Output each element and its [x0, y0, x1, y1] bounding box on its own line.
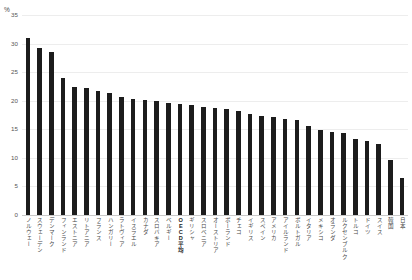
x-axis-category-label: スロバキア [154, 217, 160, 248]
bar [143, 100, 148, 215]
x-axis-category-label: スウェーデン [37, 217, 43, 254]
x-axis-category-label: リトアニア [83, 217, 89, 248]
x-axis-category-label: 韓国 [388, 217, 394, 229]
y-axis-tick: 15 [11, 126, 18, 132]
y-axis-unit-label: % [4, 6, 10, 13]
bar [72, 87, 77, 215]
bar [201, 107, 206, 215]
bar [400, 178, 405, 215]
bar [49, 52, 54, 215]
plot-area [22, 15, 408, 215]
x-axis-category-label: OECD平均 [177, 217, 183, 254]
bar [376, 144, 381, 215]
y-axis-tick-labels: 05101520253035 [0, 15, 22, 215]
x-axis-category-label: スペイン [259, 217, 265, 241]
x-axis-category-label: チェコ [236, 217, 242, 235]
bar [166, 103, 171, 215]
x-axis-category-label: カナダ [142, 217, 148, 235]
bar [236, 111, 241, 215]
bar [84, 88, 89, 215]
bar [189, 105, 194, 215]
y-axis-tick: 5 [15, 183, 18, 189]
y-axis-tick: 25 [11, 69, 18, 75]
y-axis-tick: 35 [11, 12, 18, 18]
bar [131, 99, 136, 215]
bar [330, 132, 335, 215]
bar [224, 109, 229, 215]
bar [119, 97, 124, 215]
x-axis-category-label: オーストリア [212, 217, 218, 254]
x-axis-category-label: 日本 [399, 217, 405, 229]
x-axis-category-label: ドイツ [364, 217, 370, 235]
bar [61, 78, 66, 215]
x-axis-category-label: メキシコ [317, 217, 323, 241]
x-axis-category-label: フランス [95, 217, 101, 241]
bar [341, 133, 346, 215]
bar [96, 91, 101, 215]
x-axis-category-label: アイルランド [282, 217, 288, 254]
bar [154, 101, 159, 215]
bar [248, 114, 253, 215]
x-axis-category-label: アメリカ [271, 217, 277, 241]
x-axis-category-label: イギリス [247, 217, 253, 241]
bar [388, 160, 393, 215]
bar [318, 130, 323, 215]
bars-layer [22, 15, 408, 215]
x-axis-category-label: ギリシャ [189, 217, 195, 241]
y-axis-tick: 20 [11, 98, 18, 104]
x-axis-category-label: ポルトガル [294, 217, 300, 248]
x-axis-category-label: ルクセンブルク [341, 217, 347, 260]
y-axis-tick: 0 [15, 212, 18, 218]
bar [365, 141, 370, 215]
bar [178, 104, 183, 215]
bar [271, 117, 276, 215]
bar [107, 93, 112, 215]
bar [353, 139, 358, 215]
gridline [22, 215, 408, 216]
x-axis-category-label: エストニア [72, 217, 78, 248]
bar [283, 119, 288, 215]
x-axis-category-label: ベルギー [165, 217, 171, 241]
bar [213, 108, 218, 215]
x-axis-category-label: スロベニア [200, 217, 206, 248]
y-axis-tick: 30 [11, 40, 18, 46]
x-axis-category-label: イタリア [306, 217, 312, 241]
x-axis-category-label: フィンランド [60, 217, 66, 254]
x-axis-category-label: ポーランド [224, 217, 230, 248]
x-axis-category-label: イスラエル [130, 217, 136, 248]
bar [37, 48, 42, 215]
x-axis-category-label: ハンガリー [107, 217, 113, 248]
x-axis-category-labels: ノルウェースウェーデンデンマークフィンランドエストニアリトアニアフランスハンガリ… [22, 217, 408, 279]
bar [26, 38, 31, 215]
x-axis-category-label: ラトヴィア [119, 217, 125, 248]
y-axis-tick: 10 [11, 155, 18, 161]
x-axis-category-label: トルコ [353, 217, 359, 235]
bar [259, 116, 264, 215]
x-axis-category-label: オランダ [329, 217, 335, 241]
bar [295, 120, 300, 215]
x-axis-category-label: スイス [376, 217, 382, 235]
bar-chart: % 05101520253035 ノルウェースウェーデンデンマークフィンランドエ… [0, 0, 412, 280]
bar [306, 126, 311, 215]
x-axis-category-label: ノルウェー [25, 217, 31, 248]
x-axis-category-label: デンマーク [48, 217, 54, 248]
